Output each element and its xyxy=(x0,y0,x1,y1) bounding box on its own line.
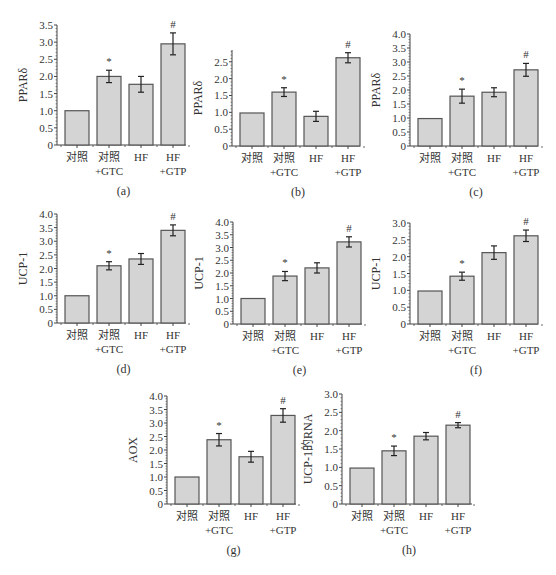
y-tick-label: 1.0 xyxy=(149,471,163,483)
y-tick-label: 0.5 xyxy=(392,126,406,138)
chart-a: 00.51.01.52.02.53.03.5PPARδ对照*对照+GTCHF#H… xyxy=(16,18,189,198)
bar xyxy=(336,58,360,146)
y-axis-label: AOX xyxy=(126,437,140,463)
bar xyxy=(414,436,438,504)
y-tick-label: 0 xyxy=(401,140,407,152)
chart-caption: (g) xyxy=(227,543,241,557)
y-tick-label: 4.0 xyxy=(392,28,406,40)
significance-marker: # xyxy=(346,222,352,234)
bar xyxy=(514,70,538,146)
bar xyxy=(65,296,89,323)
bar xyxy=(161,44,185,145)
x-tick-label: +GTP xyxy=(445,524,472,536)
y-tick-label: 1.5 xyxy=(392,268,406,280)
y-axis-label: PPARδ xyxy=(191,80,205,115)
x-tick-label: HF xyxy=(166,151,180,163)
x-tick-label: 对照 xyxy=(451,329,473,342)
x-tick-label: 对照 xyxy=(419,151,441,164)
y-tick-label: 0 xyxy=(333,498,339,510)
x-tick-label: +GTP xyxy=(160,165,187,177)
chart-caption: (h) xyxy=(402,543,416,557)
figure-svg: 00.51.01.52.02.53.03.5PPARδ对照*对照+GTCHF#H… xyxy=(0,0,556,575)
y-tick-label: 0 xyxy=(48,317,54,329)
y-tick-label: 1.0 xyxy=(392,112,406,124)
x-tick-label: HF xyxy=(519,330,533,342)
bar xyxy=(161,230,185,323)
y-tick-label: 0.5 xyxy=(215,305,229,317)
significance-marker: # xyxy=(170,18,176,30)
significance-marker: * xyxy=(459,257,465,269)
y-tick-label: 2.5 xyxy=(215,254,229,266)
y-tick-label: 3.0 xyxy=(324,388,338,400)
y-tick-label: 3.5 xyxy=(39,222,53,234)
x-tick-label: HF xyxy=(134,151,148,163)
chart-e: 00.51.01.52.02.53.03.54.0UCP-1对照*对照+GTCH… xyxy=(192,216,365,377)
bar xyxy=(97,266,121,323)
y-tick-label: 2.0 xyxy=(39,263,53,275)
x-tick-label: HF xyxy=(519,152,533,164)
x-tick-label: 对照 xyxy=(176,509,198,522)
bar xyxy=(175,477,199,504)
y-tick-label: 1.5 xyxy=(39,276,53,288)
significance-marker: * xyxy=(391,431,397,443)
y-tick-label: 2.0 xyxy=(392,251,406,263)
x-tick-label: HF xyxy=(166,329,180,341)
y-tick-label: 1.0 xyxy=(214,106,228,118)
y-tick-label: 2.0 xyxy=(149,444,163,456)
y-tick-label: 3.0 xyxy=(392,217,406,229)
chart-caption: (f) xyxy=(470,363,482,377)
bar xyxy=(65,111,89,145)
x-tick-label: 对照 xyxy=(383,509,405,522)
y-tick-label: 2.5 xyxy=(392,70,406,82)
y-tick-label: 2.5 xyxy=(39,53,53,65)
y-tick-label: 2.5 xyxy=(149,431,163,443)
x-tick-label: HF xyxy=(341,152,355,164)
significance-marker: # xyxy=(280,394,286,406)
y-tick-label: 1.5 xyxy=(215,280,229,292)
y-tick-label: 3.0 xyxy=(39,235,53,247)
x-tick-label: +GTC xyxy=(448,344,476,356)
y-tick-label: 3.5 xyxy=(215,229,229,241)
y-tick-label: 0.5 xyxy=(39,303,53,315)
bar xyxy=(482,253,506,324)
x-tick-label: HF xyxy=(451,510,465,522)
x-tick-label: HF xyxy=(310,330,324,342)
y-tick-label: 0.5 xyxy=(39,122,53,134)
chart-caption: (d) xyxy=(117,362,131,376)
x-tick-label: +GTP xyxy=(513,344,540,356)
chart-g: 00.51.01.52.02.53.03.54.0AOX对照*对照+GTCHF#… xyxy=(126,390,299,557)
x-tick-label: 对照 xyxy=(241,151,263,164)
bar xyxy=(239,457,263,504)
y-tick-label: 4.0 xyxy=(149,390,163,402)
y-tick-label: 0.5 xyxy=(392,301,406,313)
x-tick-label: +GTC xyxy=(270,166,298,178)
y-axis-label: UCP-1 xyxy=(369,257,383,290)
bar xyxy=(382,451,406,504)
significance-marker: # xyxy=(455,408,461,420)
significance-marker: # xyxy=(345,38,351,50)
bar xyxy=(129,84,153,145)
chart-d: 00.51.01.52.02.53.03.54.0UCP-1对照*对照+GTCH… xyxy=(16,208,189,376)
x-tick-label: 对照 xyxy=(273,151,295,164)
x-tick-label: HF xyxy=(244,510,258,522)
y-tick-label: 0 xyxy=(224,318,230,330)
y-tick-label: 2.0 xyxy=(392,84,406,96)
y-tick-label: 2.0 xyxy=(214,73,228,85)
y-tick-label: 1.5 xyxy=(39,88,53,100)
x-tick-label: +GTP xyxy=(160,343,187,355)
x-tick-label: HF xyxy=(487,152,501,164)
y-tick-label: 2.5 xyxy=(392,234,406,246)
y-tick-label: 3.0 xyxy=(39,36,53,48)
x-tick-label: 对照 xyxy=(451,151,473,164)
x-tick-label: HF xyxy=(276,510,290,522)
y-tick-label: 2.5 xyxy=(324,406,338,418)
bar xyxy=(97,76,121,145)
x-tick-label: +GTC xyxy=(95,343,123,355)
bar xyxy=(272,92,296,146)
y-tick-label: 3.0 xyxy=(149,417,163,429)
y-axis-label: UCP-1 xyxy=(16,252,30,285)
y-tick-label: 2.0 xyxy=(324,425,338,437)
chart-caption: (c) xyxy=(469,185,482,199)
x-tick-label: 对照 xyxy=(419,329,441,342)
y-tick-label: 0 xyxy=(223,140,229,152)
